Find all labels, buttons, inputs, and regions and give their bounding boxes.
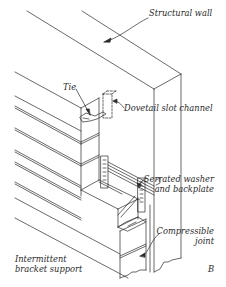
upper-masonry-block	[15, 72, 99, 190]
label-serrated-washer-line2: and backplate	[155, 185, 214, 194]
label-bracket-support-line1: Intermittent	[15, 255, 67, 264]
label-structural-wall: Structural wall	[149, 9, 212, 18]
cladding-detail-diagram: Structural wall Tie Dovetail slot channe…	[0, 0, 226, 287]
label-tie: Tie	[63, 83, 76, 92]
label-serrated-washer-line1: Serrated washer	[144, 175, 214, 184]
label-compressible-joint-line1: Compressible	[157, 227, 214, 236]
structural-wall-leader	[104, 18, 148, 42]
label-bracket-support-line2: bracket support	[15, 265, 82, 274]
isometric-drawing	[0, 0, 226, 287]
intermittent-bracket	[101, 156, 160, 257]
label-dovetail-slot-channel: Dovetail slot channel	[124, 104, 213, 113]
panel-letter: B	[208, 265, 214, 274]
label-compressible-joint-line2: joint	[195, 237, 214, 246]
tie-assembly	[76, 89, 124, 122]
